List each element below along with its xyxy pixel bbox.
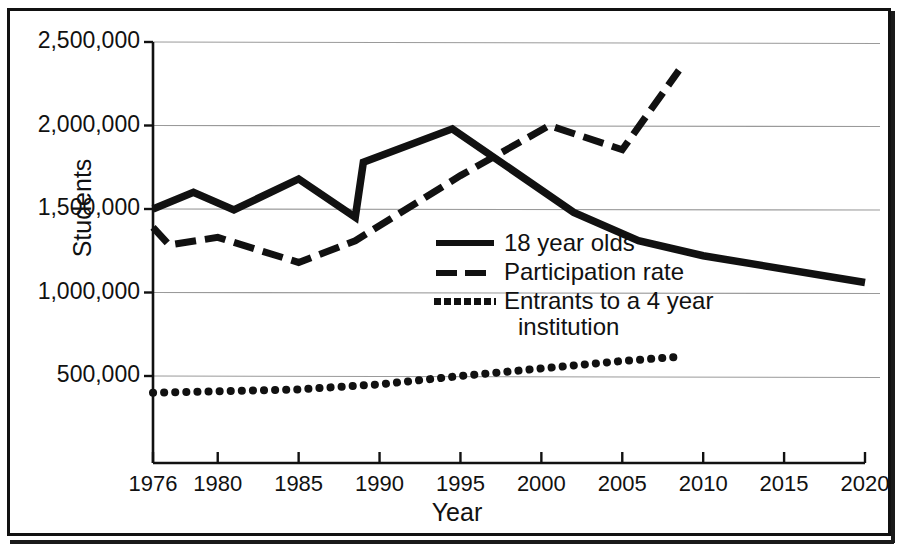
y-tick-label: 2,500,000 (0, 27, 140, 54)
x-tick-label: 1990 (340, 471, 420, 497)
x-tick-label: 2005 (582, 471, 662, 497)
legend-item-18-year-olds: 18 year olds (432, 230, 722, 256)
legend-label-18-year-olds: 18 year olds (504, 230, 635, 256)
y-axis-title-text: Students (68, 159, 97, 258)
chart-legend: 18 year olds Participation rate Entrants… (432, 230, 722, 342)
x-tick-label: 2015 (744, 471, 824, 497)
figure-container: 500,0001,000,0001,500,0002,000,0002,500,… (0, 0, 914, 554)
legend-label-entrants: Entrants to a 4 yearinstitution (504, 288, 713, 339)
x-tick-label: 2020 (825, 471, 905, 497)
x-tick-label: 2010 (663, 471, 743, 497)
gridline (153, 42, 880, 44)
x-tick-label: 1980 (178, 471, 258, 497)
legend-item-entrants: Entrants to a 4 yearinstitution (432, 288, 722, 339)
gridline (153, 209, 880, 210)
gridline (153, 126, 880, 127)
gridline (153, 376, 880, 378)
x-tick-label: 1985 (259, 471, 339, 497)
y-axis (144, 42, 153, 463)
dotted-line-swatch-icon (432, 288, 496, 314)
x-tick-label: 2000 (501, 471, 581, 497)
legend-item-participation-rate: Participation rate (432, 259, 722, 285)
legend-label-entrants-line2: institution (504, 314, 713, 340)
legend-label-entrants-line1: Entrants to a 4 year (504, 287, 713, 314)
dashed-line-swatch-icon (432, 259, 496, 285)
solid-line-swatch-icon (432, 230, 496, 256)
series-line (153, 357, 679, 393)
legend-label-participation-rate: Participation rate (504, 259, 684, 285)
y-tick-label: 500,000 (0, 361, 140, 388)
y-axis-title: Students (62, 118, 102, 298)
x-axis (153, 452, 865, 463)
x-tick-label: 1995 (420, 471, 500, 497)
x-axis-title: Year (0, 498, 914, 527)
